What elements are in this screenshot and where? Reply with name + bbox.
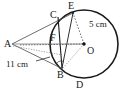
point-label-o: O [87,46,94,56]
point-label-b: B [57,70,64,80]
leader-line-11cm [36,57,50,61]
chord-cb [58,17,62,68]
radius-oe [73,13,84,44]
point-dot-e [72,12,74,14]
point-label-f: F [50,33,56,43]
point-label-c: C [50,10,57,20]
point-label-a: A [4,39,11,49]
measurement-label-chord: 11 cm [6,60,28,69]
chord-eb [62,13,73,68]
center-point-dot [82,42,85,45]
dashed-segment-ad [13,46,62,55]
point-label-d: D [76,80,83,90]
measurement-label-radius: 5 cm [89,20,107,29]
geometry-figure: A B C D E F O 5 cm 11 cm [0,0,127,92]
point-label-e: E [68,1,74,11]
segment-ac [12,13,73,44]
